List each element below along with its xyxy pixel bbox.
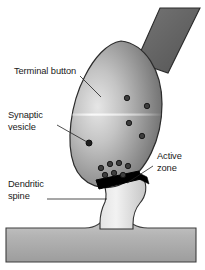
diagram-canvas: Terminal button Synaptic vesicle Dendrit… [0, 0, 205, 270]
label-active-zone-line2: zone [157, 163, 177, 173]
synapse-diagram-figure: Terminal button Synaptic vesicle Dendrit… [0, 0, 205, 270]
label-dendritic-spine-line1: Dendritic [8, 179, 44, 189]
label-dendritic-spine-line2: spine [8, 191, 30, 201]
label-synaptic-vesicle-line2: vesicle [8, 122, 36, 132]
label-terminal-button: Terminal button [14, 66, 76, 76]
bulb-highlight-streak [60, 114, 165, 116]
label-synaptic-vesicle-line1: Synaptic [8, 110, 43, 120]
label-active-zone-line1: Active [157, 151, 182, 161]
synaptic-vesicle-highlighted [86, 140, 92, 146]
